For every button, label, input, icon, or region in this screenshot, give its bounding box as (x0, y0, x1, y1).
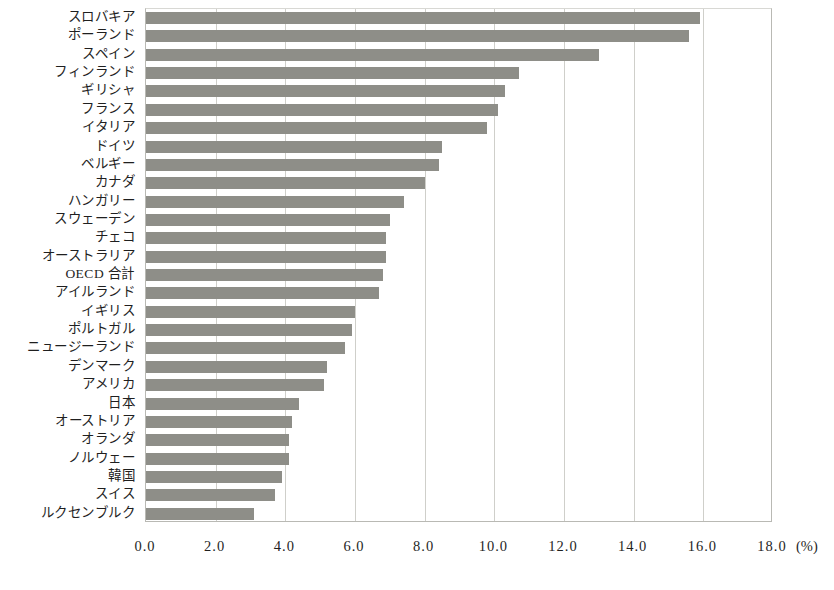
category-label: スウェーデン (54, 210, 135, 228)
category-label: ポーランド (68, 26, 136, 44)
x-tick-label: 18.0 (757, 538, 786, 555)
category-label: アメリカ (82, 375, 135, 393)
bar (146, 122, 487, 134)
category-label: スイス (95, 485, 136, 503)
category-label: オーストリア (55, 412, 135, 430)
category-label: ノルウェー (68, 449, 136, 467)
bar-row (146, 505, 773, 523)
bar (146, 85, 505, 97)
bar (146, 214, 390, 226)
bar-row (146, 395, 773, 413)
bar (146, 508, 254, 520)
bar-chart: スロバキアポーランドスペインフィンランドギリシャフランスイタリアドイツベルギーカ… (0, 0, 834, 590)
category-label: アイルランド (55, 283, 135, 301)
bar-row (146, 339, 773, 357)
bar-row (146, 174, 773, 192)
bar-row (146, 413, 773, 431)
x-tick-label: 0.0 (134, 538, 155, 555)
bar-row (146, 27, 773, 45)
bar-row (146, 248, 773, 266)
bar-row (146, 46, 773, 64)
bar-row (146, 64, 773, 82)
bars-container (146, 9, 771, 521)
bar (146, 379, 324, 391)
category-label: ルクセンブルク (41, 504, 136, 522)
bar-row (146, 101, 773, 119)
x-tick-label: 16.0 (688, 538, 717, 555)
category-label: チェコ (95, 228, 136, 246)
bar (146, 159, 439, 171)
bar-row (146, 431, 773, 449)
bar-row (146, 193, 773, 211)
bar (146, 324, 352, 336)
x-tick-label: 4.0 (274, 538, 295, 555)
category-label: オーストラリア (42, 247, 136, 265)
bar (146, 12, 700, 24)
bar (146, 141, 442, 153)
bar-row (146, 450, 773, 468)
bar (146, 471, 282, 483)
category-label: 日本 (108, 394, 135, 412)
category-label: フィンランド (54, 63, 135, 81)
bar-row (146, 358, 773, 376)
bar (146, 67, 519, 79)
category-label: ドイツ (95, 137, 136, 155)
bar-row (146, 468, 773, 486)
bar (146, 489, 275, 501)
x-tick-label: 8.0 (413, 538, 434, 555)
bar-row (146, 9, 773, 27)
bar-row (146, 156, 773, 174)
category-label: 韓国 (108, 467, 135, 485)
bar (146, 434, 289, 446)
bar (146, 196, 404, 208)
bar (146, 30, 689, 42)
x-axis-unit-label: (%) (796, 538, 818, 555)
category-label: デンマーク (68, 357, 136, 375)
bar (146, 453, 289, 465)
category-label: オランダ (81, 430, 135, 448)
category-label: イタリア (82, 118, 135, 136)
bar (146, 269, 383, 281)
bar (146, 232, 386, 244)
bar-row (146, 266, 773, 284)
category-label: スペイン (82, 45, 135, 63)
x-axis-ticks: 0.02.04.06.08.010.012.014.016.018.0(%) (0, 538, 834, 566)
bar-row (146, 138, 773, 156)
bar (146, 251, 386, 263)
category-label: ニュージーランド (27, 338, 135, 356)
bar-row (146, 229, 773, 247)
bar (146, 49, 599, 61)
bar (146, 104, 498, 116)
category-label: イギリス (81, 302, 135, 320)
x-tick-label: 10.0 (479, 538, 508, 555)
x-tick-label: 12.0 (548, 538, 577, 555)
bar (146, 177, 425, 189)
bar-row (146, 119, 773, 137)
category-axis: スロバキアポーランドスペインフィンランドギリシャフランスイタリアドイツベルギーカ… (0, 8, 143, 522)
x-tick-label: 14.0 (618, 538, 647, 555)
bar (146, 416, 292, 428)
bar-row (146, 321, 773, 339)
bar (146, 361, 327, 373)
bar (146, 306, 355, 318)
bar-row (146, 303, 773, 321)
category-label: ポルトガル (68, 320, 136, 338)
category-label: ギリシャ (81, 81, 135, 99)
category-label: フランス (81, 100, 135, 118)
x-tick-label: 6.0 (343, 538, 364, 555)
bar-row (146, 376, 773, 394)
category-label: ベルギー (81, 155, 135, 173)
bar (146, 287, 379, 299)
bar-row (146, 486, 773, 504)
category-label: スロバキア (68, 8, 136, 26)
bar-row (146, 82, 773, 100)
category-label: OECD 合計 (65, 265, 135, 283)
category-label: カナダ (95, 173, 136, 191)
category-label: ハンガリー (68, 192, 136, 210)
bar (146, 398, 299, 410)
x-tick-label: 2.0 (204, 538, 225, 555)
bar-row (146, 284, 773, 302)
plot-area (145, 8, 772, 522)
bar-row (146, 211, 773, 229)
bar (146, 342, 345, 354)
